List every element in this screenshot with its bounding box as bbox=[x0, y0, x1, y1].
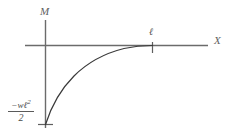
x-tick-label-ell: ℓ bbox=[149, 27, 153, 37]
min-moment-label: −wℓ2 2 bbox=[4, 99, 38, 124]
moment-curve bbox=[46, 46, 153, 125]
exponent-two: 2 bbox=[27, 98, 31, 106]
y-axis-label: M bbox=[40, 6, 49, 17]
bending-moment-diagram: M X ℓ −wℓ2 2 bbox=[0, 0, 234, 139]
min-moment-numerator: −wℓ2 bbox=[4, 99, 38, 110]
x-axis-label: X bbox=[214, 35, 221, 46]
min-moment-denominator: 2 bbox=[4, 113, 38, 124]
